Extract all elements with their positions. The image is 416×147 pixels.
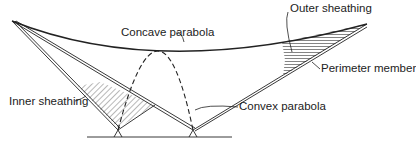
label-convex-parabola: Convex parabola [239,101,326,113]
leader-perimeter [312,62,320,69]
label-perimeter-member: Perimeter member [321,63,416,75]
label-outer-sheathing: Outer sheathing [290,3,372,15]
label-inner-sheathing: Inner sheathing [9,96,88,108]
label-concave-parabola: Concave parabola [121,27,214,39]
supports [114,130,197,137]
inner-sheathing-hatch [78,82,155,128]
